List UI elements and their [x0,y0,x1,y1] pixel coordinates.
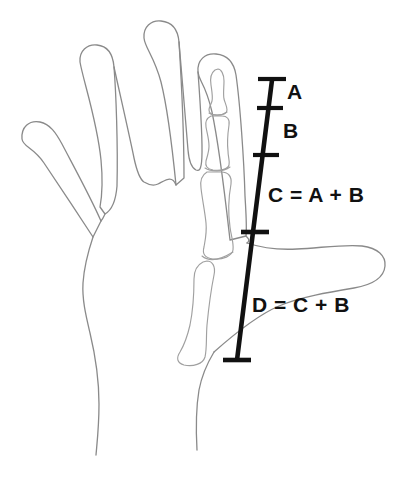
index-finger-outline [198,54,246,240]
proximal-phalanx-bone [201,172,233,259]
hand-diagram-svg [0,0,398,479]
palm-left-edge-outline [83,237,99,455]
middle-finger-outline [144,21,184,185]
web-little-ring-outline [101,214,105,221]
segment-label-d: D = C + B [252,294,350,315]
web-ring-middle-outline [114,67,176,185]
web-index-thumb-outline [246,236,249,243]
metacarpal-bone [178,261,215,366]
index-finger-bones-group [178,69,234,366]
hand-outline-group [22,21,385,455]
segment-label-b: B [283,120,299,141]
hand-measurement-figure: A B C = A + B D = C + B [0,0,398,479]
little-finger-outline [22,122,101,237]
segment-label-a: A [287,81,303,102]
palm-wrist-right-outline [196,352,214,450]
measurement-scale-bar[interactable] [223,79,286,360]
scale-bar-spine [237,80,272,360]
segment-label-c: C = A + B [268,184,364,205]
